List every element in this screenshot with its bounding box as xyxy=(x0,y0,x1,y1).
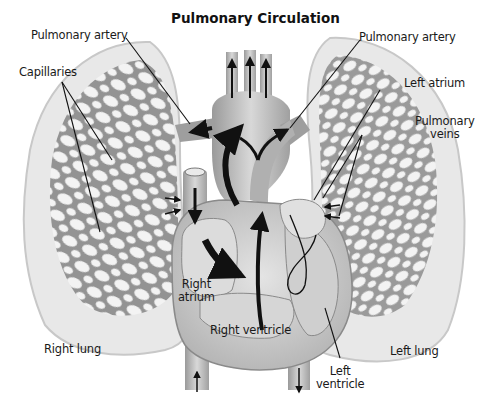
label-right-lung: Right lung xyxy=(44,343,101,356)
label-left-ventricle: Left ventricle xyxy=(316,365,364,391)
label-capillaries: Capillaries xyxy=(19,66,77,79)
label-left-lung: Left lung xyxy=(390,345,439,358)
diagram-title: Pulmonary Circulation xyxy=(171,10,340,26)
label-pulmonary-artery-left: Pulmonary artery xyxy=(31,29,128,42)
label-left-atrium: Left atrium xyxy=(404,77,465,90)
label-left-ventricle-line2: ventricle xyxy=(316,378,364,391)
label-pulmonary-veins-line2: veins xyxy=(415,128,475,141)
label-pulmonary-veins: Pulmonary veins xyxy=(415,115,475,141)
label-right-atrium: Right atrium xyxy=(178,278,215,304)
label-right-ventricle: Right ventricle xyxy=(210,324,291,337)
label-pulmonary-artery-right: Pulmonary artery xyxy=(359,31,456,44)
label-right-atrium-line2: atrium xyxy=(178,291,215,304)
